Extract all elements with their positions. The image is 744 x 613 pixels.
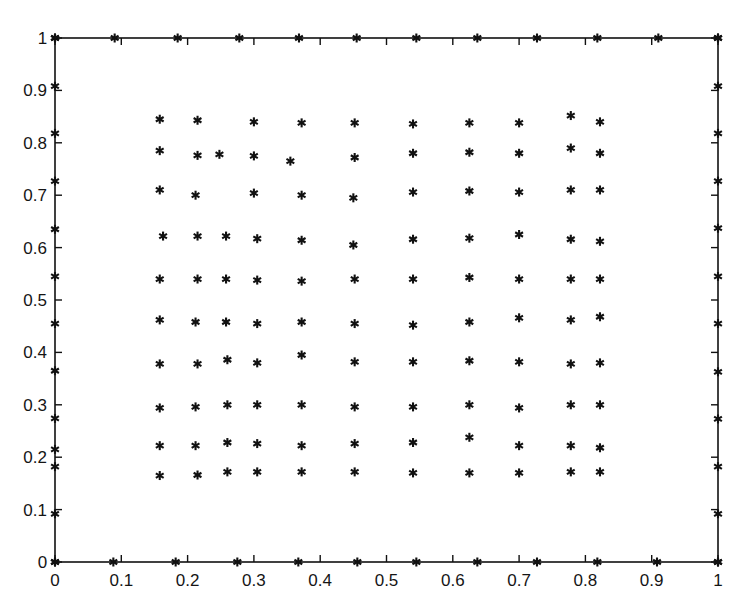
data-point-marker	[298, 441, 306, 450]
data-point-marker	[194, 116, 202, 125]
data-point-marker	[253, 439, 261, 448]
data-point-marker	[351, 319, 359, 328]
data-point-marker	[298, 118, 306, 127]
data-point-marker	[567, 359, 575, 368]
data-point-marker	[253, 400, 261, 409]
data-point-marker	[192, 318, 200, 327]
data-point-marker	[567, 235, 575, 244]
data-point-marker	[223, 467, 231, 476]
data-point-marker	[156, 441, 164, 450]
data-point-marker	[465, 118, 473, 127]
data-point-marker	[192, 441, 200, 450]
data-point-marker	[51, 82, 59, 91]
data-point-marker	[159, 232, 167, 241]
data-point-marker	[567, 467, 575, 476]
y-tick-label: 0.4	[19, 344, 47, 361]
data-point-marker	[409, 357, 417, 366]
series-interior-nodes	[156, 111, 604, 480]
data-point-marker	[194, 232, 202, 241]
x-tick-label: 0.8	[574, 572, 598, 589]
y-tick-label: 0.5	[19, 292, 47, 309]
data-point-marker	[223, 400, 231, 409]
data-point-marker	[567, 315, 575, 324]
data-point-marker	[596, 275, 604, 284]
axes-frame	[55, 38, 718, 562]
data-point-marker	[222, 318, 230, 327]
data-point-marker	[222, 232, 230, 241]
data-point-marker	[596, 467, 604, 476]
data-point-marker	[409, 402, 417, 411]
data-point-marker	[298, 236, 306, 245]
x-tick-label: 0.6	[441, 572, 465, 589]
data-point-marker	[298, 351, 306, 360]
data-point-marker	[250, 189, 258, 198]
data-point-marker	[465, 234, 473, 243]
data-point-marker	[222, 275, 230, 284]
data-point-marker	[253, 276, 261, 285]
data-point-marker	[250, 151, 258, 160]
data-point-marker	[714, 462, 722, 471]
y-tick-label: 0	[38, 554, 47, 571]
y-tick-label: 0.7	[19, 187, 47, 204]
data-point-marker	[253, 358, 261, 367]
y-tick-label: 0.1	[19, 501, 47, 518]
data-point-marker	[596, 358, 604, 367]
x-tick-label: 1	[713, 572, 722, 589]
data-point-marker	[567, 400, 575, 409]
data-point-marker	[194, 471, 202, 480]
data-point-marker	[409, 188, 417, 197]
data-point-marker	[156, 146, 164, 155]
data-point-marker	[515, 313, 523, 322]
data-point-marker	[223, 438, 231, 447]
data-point-marker	[567, 111, 575, 120]
axis-ticks	[55, 38, 718, 562]
data-point-marker	[156, 403, 164, 412]
data-point-marker	[714, 82, 722, 91]
data-point-marker	[286, 157, 294, 166]
data-point-marker	[714, 177, 722, 186]
y-tick-label: 0.8	[19, 134, 47, 151]
data-point-marker	[465, 400, 473, 409]
data-point-marker	[194, 275, 202, 284]
data-point-marker	[349, 240, 357, 249]
data-point-marker	[51, 414, 59, 423]
data-point-marker	[253, 234, 261, 243]
data-point-marker	[51, 509, 59, 518]
data-point-marker	[250, 117, 258, 126]
data-point-marker	[253, 467, 261, 476]
data-point-marker	[298, 318, 306, 327]
data-point-marker	[351, 357, 359, 366]
data-point-marker	[567, 185, 575, 194]
data-point-marker	[714, 509, 722, 518]
x-tick-label: 0.4	[308, 572, 332, 589]
data-point-marker	[567, 144, 575, 153]
data-point-marker	[714, 414, 722, 423]
x-tick-label: 0.2	[176, 572, 200, 589]
data-point-marker	[51, 225, 59, 234]
y-tick-label: 0.3	[19, 396, 47, 413]
data-point-marker	[409, 438, 417, 447]
y-tick-label: 0.2	[19, 449, 47, 466]
x-tick-label: 0	[50, 572, 59, 589]
data-point-marker	[409, 119, 417, 128]
x-tick-label: 0.7	[507, 572, 531, 589]
data-point-marker	[515, 188, 523, 197]
data-point-marker	[192, 191, 200, 200]
data-point-marker	[156, 315, 164, 324]
data-point-marker	[223, 355, 231, 364]
data-point-marker	[351, 153, 359, 162]
data-point-marker	[253, 319, 261, 328]
data-point-marker	[194, 151, 202, 160]
data-point-marker	[156, 275, 164, 284]
data-point-marker	[351, 118, 359, 127]
data-point-marker	[465, 356, 473, 365]
data-point-marker	[714, 272, 722, 281]
data-point-marker	[465, 187, 473, 196]
data-point-marker	[714, 367, 722, 376]
data-point-marker	[409, 275, 417, 284]
x-tick-label: 0.9	[640, 572, 664, 589]
data-point-marker	[194, 359, 202, 368]
data-point-marker	[714, 129, 722, 138]
data-point-marker	[515, 441, 523, 450]
data-point-marker	[298, 191, 306, 200]
